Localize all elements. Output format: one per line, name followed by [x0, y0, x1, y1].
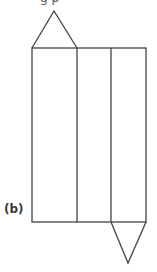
bottom-triangle	[111, 222, 146, 263]
figure-label: (b)	[4, 202, 24, 216]
prism-net-diagram	[0, 0, 157, 272]
outer-rectangle	[32, 48, 146, 222]
top-triangle	[32, 11, 77, 48]
